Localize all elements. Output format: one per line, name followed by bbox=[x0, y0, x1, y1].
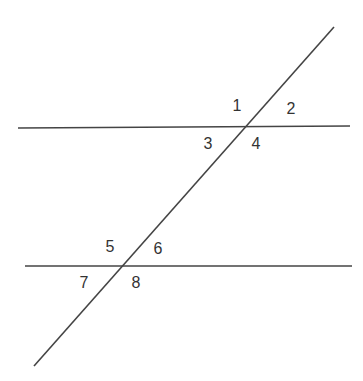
angle-label-5: 5 bbox=[106, 239, 115, 255]
angle-label-4: 4 bbox=[252, 136, 261, 152]
angle-label-3: 3 bbox=[204, 136, 213, 152]
angle-label-1: 1 bbox=[233, 98, 242, 114]
transversal-line bbox=[34, 27, 334, 366]
diagram-canvas: 1 2 3 4 5 6 7 8 bbox=[0, 0, 363, 381]
angle-label-8: 8 bbox=[132, 275, 141, 291]
upper-parallel-line bbox=[18, 126, 350, 128]
diagram-lines bbox=[0, 0, 363, 381]
angle-label-7: 7 bbox=[80, 275, 89, 291]
angle-label-2: 2 bbox=[287, 101, 296, 117]
angle-label-6: 6 bbox=[154, 241, 163, 257]
